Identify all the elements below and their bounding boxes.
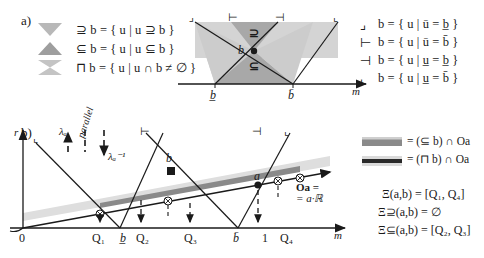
dark-band-swatch xyxy=(362,139,402,146)
lambda-a-inverse-label: λₐ⁻¹ xyxy=(108,151,125,162)
equation-xi-subseteq: Ξ⊆(a,b) = [Q₂, Q₃] xyxy=(378,224,471,236)
legend-text-subseteq: = (⊆ b) ∩ Oa xyxy=(407,136,470,148)
panel-a-cone-diagram xyxy=(178,22,366,88)
corner-top-left-icon: ⌟ xyxy=(360,18,366,31)
corner-def-3: b = { u | u̲ = b̲ } xyxy=(378,54,458,67)
tick-label-b-lower: b̲ xyxy=(120,232,126,244)
cone-top-mid-left-glyph-icon: ⊢ xyxy=(228,12,238,23)
panel-b-label: b) xyxy=(21,126,32,139)
plot-glyph-top-left-icon: ⌞ xyxy=(33,133,38,144)
point-b-marker xyxy=(167,167,175,175)
cone-top-mid-right-glyph-icon: ⊣ xyxy=(275,12,285,23)
lambda-a-label: λₐ xyxy=(59,126,67,137)
equation-xi-supseteq: Ξ⊇(a,b) = ∅ xyxy=(378,206,441,218)
plot-glyph-mid-right-icon: ⊣ xyxy=(252,126,262,137)
upper-cone-symbol: ⊇ xyxy=(249,27,259,39)
diagram-tick-b-lower: b̲ xyxy=(210,89,216,101)
tick-label-b-upper: b̄ xyxy=(233,232,239,244)
corner-bottom-right-icon: ⌞ xyxy=(360,72,366,85)
set-def-supseteq: ⊇ b = { u | u ⊇ b } xyxy=(76,24,175,37)
diagram-m-axis-label: m xyxy=(352,86,360,97)
plot-point-b-label: b xyxy=(166,152,172,164)
cone-top-right-glyph-icon: ⌞ xyxy=(333,12,338,23)
plot-glyph-mid-left-icon: ⊢ xyxy=(140,126,150,137)
axis-r-label: r xyxy=(14,127,18,138)
panel-b-plot xyxy=(10,130,402,232)
lower-cone-symbol: ⊆ xyxy=(249,60,259,72)
tick-label-Q2: Q₂ xyxy=(136,232,149,244)
tick-label-0: 0 xyxy=(19,232,25,244)
corner-top-right-icon: ⊣ xyxy=(360,54,371,67)
panel-a-label: a) xyxy=(21,14,31,27)
cone-top-left-glyph-icon: ⌟ xyxy=(189,12,194,23)
tick-label-Q3: Q₃ xyxy=(184,232,197,244)
light-band-swatch xyxy=(362,159,402,163)
corner-bottom-left-icon: ⊢ xyxy=(360,36,371,49)
figure-root: a) b) ⊇ b = { u | u ⊇ b } ⊆ b = { u | u … xyxy=(0,0,484,258)
corner-def-2: b = { u | ū = b̄ } xyxy=(378,36,458,49)
tick-label-Q1: Q₁ xyxy=(92,232,105,244)
corner-def-1: b = { u | ū = b̲ } xyxy=(378,18,458,31)
plot-point-a-label: a xyxy=(254,170,260,182)
diagram-tick-b-upper: b̄ xyxy=(288,89,294,101)
set-def-subseteq: ⊆ b = { u | u ⊆ b } xyxy=(76,43,175,56)
equation-xi: Ξ(a,b) = [Q₁, Q₄] xyxy=(382,188,465,200)
plot-glyph-top-right-icon: ⌞ xyxy=(284,126,289,137)
legend-text-overlap: = (⊓ b) ∩ Oa xyxy=(407,154,469,166)
set-def-overlap: ⊓ b = { u | u ∩ b ≠ ∅ } xyxy=(76,62,196,75)
corner-def-4: b = { u | u̲ = b̄ } xyxy=(378,72,458,85)
diagram-point-b-label: b xyxy=(238,44,244,56)
oa-label-line2: = a·ℝ xyxy=(296,193,323,204)
tick-label-Q4: Q₄ xyxy=(280,232,293,244)
tick-label-1: 1 xyxy=(262,232,268,244)
axis-m-label: m xyxy=(334,230,342,241)
